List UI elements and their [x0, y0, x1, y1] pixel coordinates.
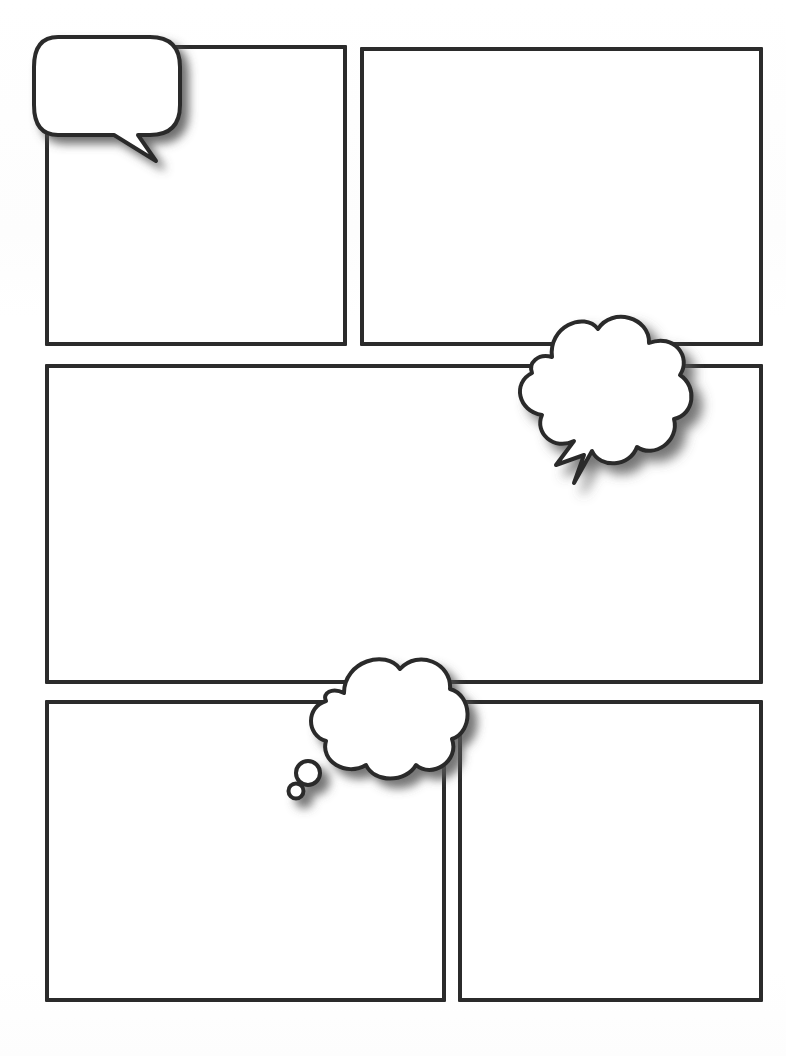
comic-page: [0, 0, 786, 1056]
thought-bubble[interactable]: [282, 645, 482, 815]
bottom-right-panel[interactable]: [458, 700, 763, 1002]
speech-bubble-text: [30, 33, 210, 183]
thought-bubble-text: [282, 645, 482, 815]
speech-bubble[interactable]: [30, 33, 210, 183]
shout-bubble[interactable]: [492, 305, 707, 510]
top-right-panel[interactable]: [360, 47, 763, 346]
shout-bubble-text: [492, 305, 707, 510]
